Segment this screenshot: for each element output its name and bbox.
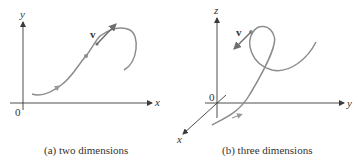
panel-two-dimensions: y x 0 v [10, 8, 160, 118]
figure-canvas: y x 0 v z y x 0 v [0, 0, 362, 168]
z-axis-label: z [213, 4, 219, 16]
origin-label: 0 [209, 91, 215, 103]
curve [32, 28, 136, 95]
curve-point [84, 54, 88, 58]
curve-direction-arrow [232, 115, 240, 118]
origin-label: 0 [15, 106, 21, 118]
x-axis [183, 95, 226, 134]
vector-label: v [236, 26, 242, 38]
vector-label: v [90, 28, 96, 40]
tangent-vector [97, 24, 116, 44]
y-axis-label: y [19, 8, 25, 20]
panel-three-dimensions: z y x 0 v [176, 4, 352, 145]
curve-direction-arrow [52, 87, 58, 91]
x-axis-label: x [154, 96, 160, 108]
y-axis-label: y [346, 97, 352, 109]
caption-a: (a) two dimensions [44, 144, 128, 156]
curve [212, 26, 316, 125]
x-axis-label: x [176, 133, 182, 145]
caption-b: (b) three dimensions [222, 144, 312, 156]
